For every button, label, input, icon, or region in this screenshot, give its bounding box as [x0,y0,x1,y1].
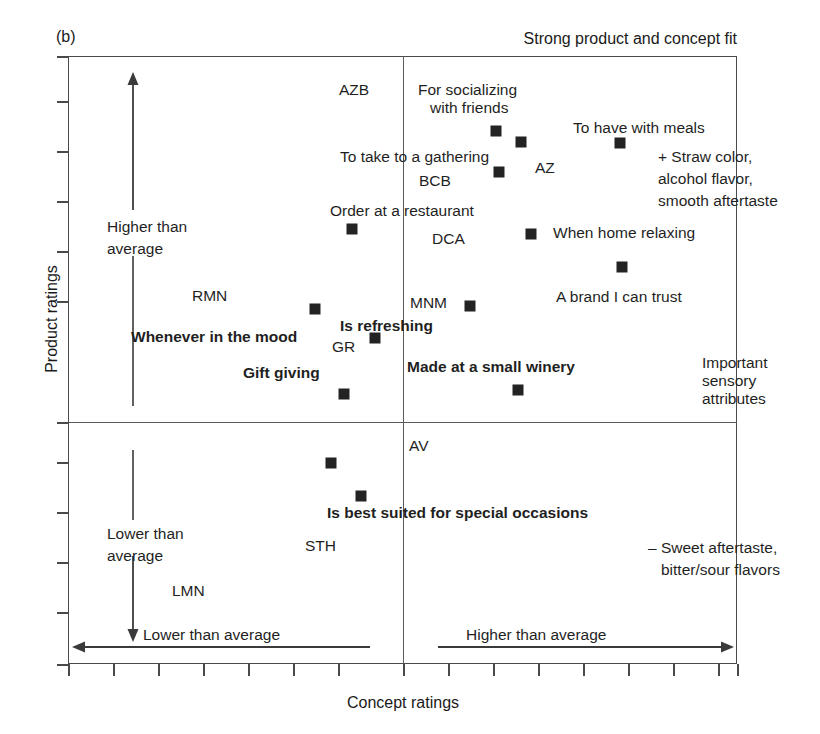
x-tick-8 [448,664,450,676]
label-important: Important [702,354,767,372]
x-tick-7 [403,664,405,676]
label-bitter-sour: bitter/sour flavors [661,561,780,579]
y-tick-6 [57,422,69,424]
label-higher-avg-y1: Higher than [107,218,187,236]
marker-order-restaurant [347,224,358,235]
label-made-winery: Made at a small winery [407,358,575,376]
y-axis-midline-lower [126,450,140,520]
x-tick-12 [628,664,630,676]
marker-sth [326,458,337,469]
x-tick-6 [338,664,340,676]
marker-to-have-meals [615,138,626,149]
panel-letter: (b) [56,28,76,46]
label-a-brand: A brand I can trust [556,288,682,306]
label-when-home: When home relaxing [553,224,695,242]
x-tick-15 [737,664,739,676]
y-tick-10 [57,612,69,614]
marker-mnm [465,301,476,312]
x-tick-11 [583,664,585,676]
x-tick-0 [68,664,70,676]
marker-a-brand [617,262,628,273]
y-axis-label: Product ratings [43,219,61,419]
y-tick-4 [57,251,69,253]
y-tick-5 [57,301,69,303]
marker-whenever-mood [310,304,321,315]
label-lower-avg-x: Lower than average [143,626,280,644]
marker-is-best-suited [356,491,367,502]
label-gift-giving: Gift giving [243,364,320,382]
x-tick-3 [203,664,205,676]
x-tick-10 [538,664,540,676]
x-axis-label: Concept ratings [347,694,459,712]
label-sweet-after: – Sweet aftertaste, [648,539,777,557]
y-tick-8 [57,512,69,514]
x-tick-1 [113,664,115,676]
horizontal-divider [68,422,737,423]
label-lmn: LMN [172,582,205,600]
y-tick-9 [57,562,69,564]
y-tick-2 [57,151,69,153]
higher-than-average-y-arrow [126,72,140,210]
y-tick-0 [57,56,69,58]
scatter-plot-figure: (b) Strong product and concept fit Produ… [0,0,820,734]
label-order-rest: Order at a restaurant [330,202,474,220]
label-lower-avg-y2: average [107,547,163,565]
x-tick-14 [718,664,720,676]
marker-az [516,137,527,148]
x-tick-5 [293,664,295,676]
label-whenever-mood: Whenever in the mood [131,328,297,346]
label-is-best-suited: Is best suited for special occasions [327,504,588,522]
label-attributes: attributes [702,390,766,408]
label-straw-color: + Straw color, [658,148,752,166]
label-sth: STH [305,537,336,555]
y-tick-3 [57,201,69,203]
label-azb: AZB [339,81,369,99]
label-alcohol-flavor: alcohol flavor, [658,170,753,188]
label-smooth-after: smooth aftertaste [658,192,778,210]
label-for-socializing: For socializing [418,81,517,99]
label-to-take: To take to a gathering [340,148,489,166]
label-with-friends: with friends [430,99,508,117]
label-higher-avg-x: Higher than average [466,626,606,644]
x-tick-4 [248,664,250,676]
label-rmn: RMN [192,287,227,305]
label-is-refreshing: Is refreshing [340,317,433,335]
chart-title: Strong product and concept fit [524,30,737,48]
marker-when-home [526,229,537,240]
y-tick-7 [57,462,69,464]
x-tick-2 [158,664,160,676]
x-tick-13 [673,664,675,676]
marker-made-winery [513,385,524,396]
marker-gift-giving [339,389,350,400]
label-bcb: BCB [419,172,451,190]
label-sensory: sensory [702,372,756,390]
lower-than-average-y-arrow [126,556,140,642]
label-gr: GR [332,338,355,356]
label-av: AV [409,437,429,455]
label-az: AZ [535,159,555,177]
label-dca: DCA [432,230,465,248]
label-higher-avg-y2: average [107,240,163,258]
x-tick-9 [493,664,495,676]
marker-bcb [494,167,505,178]
y-tick-1 [57,101,69,103]
marker-for-socializing [491,126,502,137]
label-to-have-meals: To have with meals [573,119,705,137]
label-lower-avg-y1: Lower than [107,525,184,543]
label-mnm: MNM [410,294,447,312]
